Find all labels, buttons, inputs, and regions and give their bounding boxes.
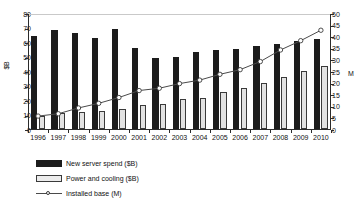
line-series (28, 14, 331, 130)
tick-mark-right (331, 37, 334, 38)
tick-mark-right (331, 14, 334, 15)
tick-mark-bottom (28, 130, 29, 133)
legend-item: New server spend ($B) (36, 156, 139, 171)
line-marker (299, 38, 303, 42)
x-tick-label: 1997 (48, 134, 68, 142)
tick-mark-bottom (311, 130, 312, 133)
legend-item: Installed base (M) (36, 186, 139, 201)
legend-key-installed-base (36, 190, 62, 197)
line-marker (137, 88, 141, 92)
x-tick-label: 1998 (68, 134, 88, 142)
line-marker (97, 101, 101, 105)
tick-mark-bottom (149, 130, 150, 133)
y-axis-title-right: M (348, 70, 354, 77)
tick-mark-bottom (270, 130, 271, 133)
legend-label: Installed base (M) (66, 190, 122, 198)
line-installed-base (38, 30, 321, 116)
x-tick-label: 2002 (149, 134, 169, 142)
x-tick-label: 2010 (311, 134, 331, 142)
x-tick-label: 2007 (250, 134, 270, 142)
legend-key-power-and-cooling (36, 175, 62, 182)
x-tick-label: 2003 (169, 134, 189, 142)
tick-mark-right (331, 49, 334, 50)
x-tick-label: 1996 (28, 134, 48, 142)
chart-legend: New server spend ($B)Power and cooling (… (36, 156, 139, 201)
tick-mark-right (331, 95, 334, 96)
x-tick-label: 1999 (89, 134, 109, 142)
tick-mark-bottom (89, 130, 90, 133)
line-marker (157, 86, 161, 90)
x-tick-label: 2000 (109, 134, 129, 142)
x-tick-label: 2008 (270, 134, 290, 142)
legend-label: Power and cooling ($B) (66, 175, 139, 183)
x-tick-label: 2001 (129, 134, 149, 142)
line-marker (177, 81, 181, 85)
tick-mark-bottom (169, 130, 170, 133)
tick-mark-bottom (230, 130, 231, 133)
tick-mark-right (331, 118, 334, 119)
line-marker (36, 114, 40, 118)
tick-mark-right (331, 84, 334, 85)
line-marker (238, 67, 242, 71)
line-marker (258, 59, 262, 63)
tick-mark-right (331, 60, 334, 61)
tick-mark-bottom (109, 130, 110, 133)
tick-mark-bottom (190, 130, 191, 133)
y-axis-title-left: $B (3, 61, 10, 69)
line-marker (117, 95, 121, 99)
tick-mark-bottom (210, 130, 211, 133)
tick-mark-bottom (331, 130, 332, 133)
legend-item: Power and cooling ($B) (36, 171, 139, 186)
line-marker (319, 28, 323, 32)
tick-mark-bottom (48, 130, 49, 133)
x-tick-label: 2006 (230, 134, 250, 142)
chart-container: $B M 01020304050607080 05101520253035404… (0, 0, 360, 210)
plot-area (28, 14, 331, 130)
legend-key-new-server-spend (36, 160, 62, 167)
x-tick-label: 2005 (210, 134, 230, 142)
x-tick-label: 2009 (291, 134, 311, 142)
line-marker (56, 112, 60, 116)
legend-label: New server spend ($B) (66, 160, 138, 168)
tick-mark-right (331, 107, 334, 108)
tick-mark-right (331, 26, 334, 27)
line-marker (198, 78, 202, 82)
tick-mark-bottom (129, 130, 130, 133)
line-marker (278, 48, 282, 52)
line-marker (218, 72, 222, 76)
line-marker (76, 106, 80, 110)
tick-mark-bottom (68, 130, 69, 133)
x-tick-label: 2004 (190, 134, 210, 142)
tick-mark-right (331, 72, 334, 73)
tick-mark-bottom (291, 130, 292, 133)
tick-mark-bottom (250, 130, 251, 133)
